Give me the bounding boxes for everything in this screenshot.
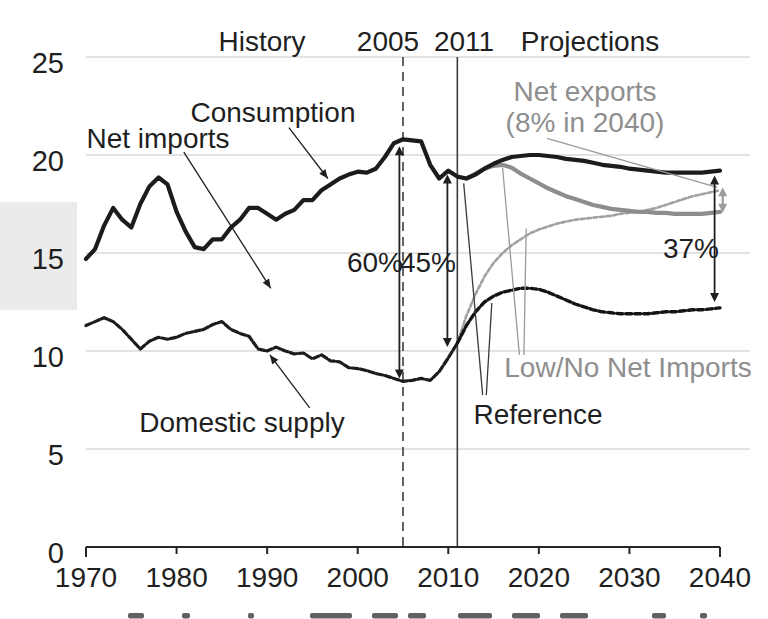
reference-leader-1 [464,183,483,395]
x-tick-label: 1980 [145,562,207,594]
low-no-leader-2 [524,229,526,355]
consumption-pointer [289,128,328,179]
consumption-pointer-arrowhead [319,169,328,178]
cropped-caption-fragment [458,613,492,619]
history-label: History [218,27,305,58]
cropped-caption-fragment [372,613,398,619]
span-arrow-head-bottom [443,338,452,347]
y-tick-label: 5 [48,439,64,472]
span-arrow-head-bottom [710,293,719,302]
vline-2005-label: 2005 [357,27,419,58]
low-no-net-imports-label: Low/No Net Imports [504,353,751,384]
net-imports-pointer [184,152,271,288]
reference-label: Reference [473,400,602,431]
domestic-supply-pointer-arrowhead [270,355,278,365]
cropped-caption-fragment [512,613,540,619]
span-arrow-head-top [710,176,719,185]
series-domestic-supply-reference [457,288,720,343]
cropped-caption-fragment [182,613,190,619]
cropped-caption-fragment [560,613,588,619]
pct-37-label: 37% [663,234,719,265]
x-tick-label: 1990 [236,562,298,594]
vline-2011-label: 2011 [434,27,494,58]
figure: History 2005 2011 Projections Consumptio… [0,0,768,619]
projections-label: Projections [521,27,660,58]
y-tick-label: 0 [48,537,64,570]
x-tick-label: 1970 [55,562,117,594]
x-tick-label: 2000 [327,562,389,594]
domestic-supply-pointer [270,355,310,408]
reference-leader-2 [486,303,492,395]
cropped-caption-fragment [652,613,666,619]
cropped-caption-fragment [408,613,426,619]
net-exports-leader [547,138,717,187]
x-tick-label: 2020 [508,562,570,594]
net-imports-label: Net imports [86,124,229,155]
low-no-leader-1 [503,168,520,355]
cropped-caption-fragment [310,613,352,619]
domestic-supply-label: Domestic supply [139,408,344,439]
net-exports-label: Net exports (8% in 2040) [506,77,665,139]
y-tick-label: 20 [32,145,64,178]
cropped-caption-fragment [128,613,144,619]
net-imports-pointer-arrowhead [263,279,271,289]
net-exports-label-line2: (8% in 2040) [506,108,665,139]
pct-45-label: 45% [400,248,456,279]
x-tick-label: 2010 [417,562,479,594]
span-arrow-head-top [718,187,727,196]
net-exports-label-line1: Net exports [506,77,665,108]
x-tick-label: 2030 [598,562,660,594]
cropped-caption-fragment [248,613,254,619]
pct-60-label: 60% [347,248,403,279]
cropped-caption-fragment [700,613,707,619]
y-tick-label: 25 [32,47,64,80]
x-tick-label: 2040 [689,562,751,594]
y-tick-label: 15 [32,243,64,276]
y-tick-label: 10 [32,341,64,374]
